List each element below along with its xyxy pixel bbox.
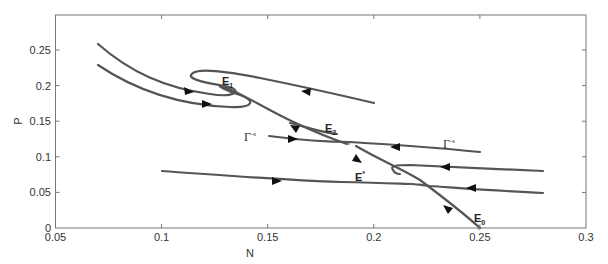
y-tick-label: 0.05 (30, 186, 51, 198)
equilibrium-label-e0: E0 (474, 212, 485, 226)
x-tick-label: 0.1 (154, 231, 169, 243)
x-axis: 0.05 0.1 0.15 0.2 0.25 0.3 N (45, 15, 594, 259)
x-tick-label: 0.2 (366, 231, 381, 243)
arrow-down-right-icon (352, 154, 362, 163)
y-tick-label: 0.2 (36, 80, 51, 92)
arrow-up-left-icon (443, 205, 453, 214)
trajectory-bottom-left (162, 171, 412, 184)
unstable-manifold (356, 146, 480, 228)
arrow-left-icon (440, 163, 450, 171)
equilibrium-label-estar: E* (355, 170, 365, 183)
star-marker-icon: * (347, 140, 351, 150)
gamma-label-left: Γ-s (244, 130, 256, 144)
separatrix-gamma-right (350, 142, 480, 152)
x-tick-label: 0.15 (257, 231, 278, 243)
equilibrium-label-e2: E2 (325, 122, 336, 136)
y-tick-label: 0 (45, 222, 51, 234)
x-axis-label: N (246, 247, 254, 259)
plot-frame (56, 15, 587, 228)
star-marker-icon: * (477, 225, 481, 235)
arrow-right-icon (288, 135, 298, 143)
arrow-right-icon (202, 100, 212, 108)
separatrix-gamma-left (269, 136, 350, 142)
trajectory-right-upper (392, 165, 543, 174)
arrow-up-left-icon (290, 125, 300, 133)
y-tick-label: 0.1 (36, 151, 51, 163)
equilibrium-label-e1: E1 (222, 75, 233, 89)
trajectories (98, 44, 543, 228)
phase-portrait-chart: 0.05 0.1 0.15 0.2 0.25 0.3 N 0 0.05 0.1 … (0, 0, 608, 264)
y-tick-label: 0.15 (30, 115, 51, 127)
arrow-left-icon (301, 88, 311, 96)
y-axis-label: P (12, 117, 24, 124)
arrow-left-icon (466, 184, 476, 192)
y-tick-label: 0.25 (30, 44, 51, 56)
x-tick-label: 0.3 (578, 231, 593, 243)
